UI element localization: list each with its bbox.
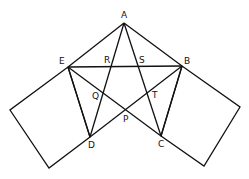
point-label-r: R [104,56,110,65]
right-square [161,66,240,166]
geometry-diagram: AERSBQTPDC [0,0,249,179]
left-square [10,67,90,168]
point-label-p: P [123,115,128,124]
segment-ac [124,23,161,136]
segment-ec [68,67,161,136]
segment-ae [68,23,124,67]
point-label-d: D [88,141,95,150]
point-label-t: T [152,91,158,100]
segment-ab [124,23,182,66]
point-label-a: A [121,11,127,20]
segment-eb [68,66,182,67]
pentagram-with-squares [0,0,249,179]
segment-bd [90,66,182,137]
point-label-c: C [158,140,164,149]
segment-bc [161,66,182,136]
point-label-s: S [139,56,145,65]
point-label-b: B [184,57,190,66]
point-label-e: E [59,57,65,66]
segment-ad [90,23,124,137]
point-label-q: Q [92,92,99,101]
segment-ed [68,67,90,137]
